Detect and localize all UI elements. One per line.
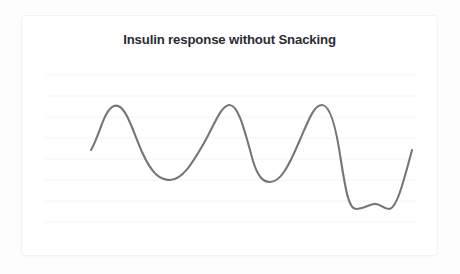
chart-card: Insulin response without Snacking: [22, 16, 437, 255]
screenshot-root: Insulin response without Snacking: [0, 0, 460, 274]
gridlines-group: [45, 75, 415, 222]
insulin-response-line: [91, 105, 412, 209]
line-chart-svg: [22, 16, 437, 255]
plot-area: [22, 16, 437, 255]
